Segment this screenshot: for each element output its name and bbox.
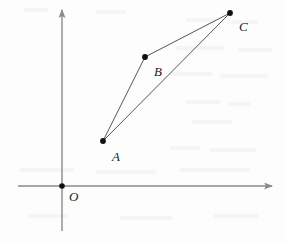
origin-label: O: [69, 190, 78, 203]
axes-group: [18, 10, 272, 231]
origin-point: [59, 183, 65, 189]
vector-triangle-figure: O A B C: [0, 0, 285, 244]
point-label-c: C: [239, 20, 248, 33]
background-scan-artifacts: [20, 8, 272, 220]
point-marker-b: [142, 54, 148, 60]
diagram-canvas: [0, 0, 285, 244]
segment-a-to-b: [103, 57, 145, 141]
point-marker-c: [227, 10, 233, 16]
point-label-b: B: [154, 65, 162, 78]
point-marker-a: [100, 138, 106, 144]
point-label-a: A: [112, 150, 120, 163]
